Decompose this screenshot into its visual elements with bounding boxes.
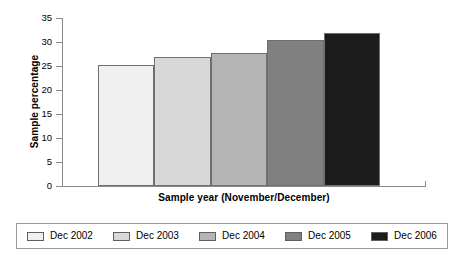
legend-item-label: Dec 2005 [308, 231, 351, 241]
legend-item-label: Dec 2004 [222, 231, 265, 241]
bar [324, 33, 380, 186]
legend-item-label: Dec 2002 [50, 231, 93, 241]
legend-swatch-icon [199, 232, 216, 241]
legend-item: Dec 2006 [371, 231, 437, 241]
bar-series [0, 0, 467, 212]
legend-swatch-icon [371, 232, 388, 241]
legend-swatch-icon [113, 232, 130, 241]
legend-item-label: Dec 2003 [136, 231, 179, 241]
legend-item-label: Dec 2006 [394, 231, 437, 241]
legend-item: Dec 2002 [27, 231, 93, 241]
plot-area: Sample percentage Sample year (November/… [0, 0, 467, 212]
legend-item: Dec 2003 [113, 231, 179, 241]
legend-item: Dec 2005 [285, 231, 351, 241]
legend-swatch-icon [285, 232, 302, 241]
chart-legend: Dec 2002Dec 2003Dec 2004Dec 2005Dec 2006 [16, 223, 448, 249]
legend-item: Dec 2004 [199, 231, 265, 241]
bar [154, 57, 210, 186]
bar [267, 40, 323, 186]
bar-chart-figure: Sample percentage Sample year (November/… [0, 0, 467, 257]
bar [98, 65, 154, 186]
legend-swatch-icon [27, 232, 44, 241]
bar [211, 53, 267, 186]
